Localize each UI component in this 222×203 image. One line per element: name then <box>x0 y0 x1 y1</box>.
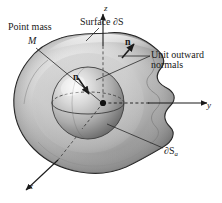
label-axis-z: z <box>104 4 108 13</box>
label-axis-y: y <box>207 101 211 110</box>
label-inner-surface-subscript: a <box>175 150 178 157</box>
label-inner-surface: ∂Sa <box>164 146 178 157</box>
point-mass-dot <box>100 100 106 106</box>
inner-sphere-surface <box>52 67 124 139</box>
label-axis-x: x <box>29 182 33 191</box>
label-unit-outward-normals-line2: normals <box>151 60 183 71</box>
label-normal-inner: n <box>73 72 79 83</box>
sphere-body <box>52 67 124 139</box>
label-inner-surface-main: ∂S <box>164 145 175 156</box>
label-point-mass: Point mass <box>8 22 52 33</box>
label-surface: Surface ∂S <box>80 17 124 28</box>
label-normal-outer: n <box>125 37 131 48</box>
label-point-mass-symbol: M <box>28 36 36 47</box>
figure-canvas: Point mass M Surface ∂S n n Unit outward… <box>0 0 222 203</box>
